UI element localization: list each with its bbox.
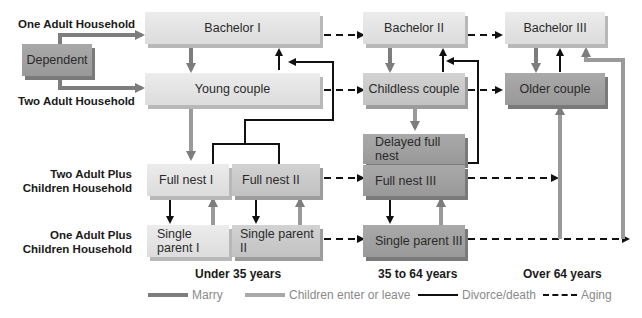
row-label-line-2: Children Household [20, 242, 132, 256]
node-single-parent-2: Single parent II [232, 225, 320, 257]
children-swatch-icon [245, 293, 285, 297]
node-single-parent-1: Single parent I [147, 225, 229, 257]
aging-swatch-icon [543, 294, 577, 296]
legend-aging: Aging [543, 288, 612, 302]
row-label-one-adult: One Adult Household [18, 17, 135, 31]
legend-divorce: Divorce/death [418, 288, 536, 302]
marry-swatch-icon [148, 293, 188, 297]
row-label-line-2: Children Household [20, 181, 132, 195]
legend-label: Divorce/death [462, 288, 536, 302]
age-label-over-64: Over 64 years [523, 267, 602, 281]
age-label-under-35: Under 35 years [195, 267, 281, 281]
legend-children: Children enter or leave [245, 288, 410, 302]
node-bachelor-3: Bachelor III [505, 12, 605, 44]
legend-label: Aging [581, 288, 612, 302]
node-older-couple: Older couple [505, 73, 605, 105]
node-full-nest-3: Full nest III [363, 165, 465, 196]
node-full-nest-1: Full nest I [147, 164, 229, 196]
legend-label: Marry [192, 288, 223, 302]
row-label-line-1: Two Adult Plus [20, 167, 132, 181]
node-bachelor-2: Bachelor II [363, 12, 465, 44]
age-label-35-64: 35 to 64 years [378, 267, 457, 281]
row-label-line-1: One Adult Plus [20, 228, 132, 242]
node-single-parent-3: Single parent III [363, 225, 465, 257]
node-full-nest-2: Full nest II [232, 164, 320, 196]
legend-label: Children enter or leave [289, 288, 410, 302]
divorce-swatch-icon [418, 294, 458, 296]
row-label-two-adult: Two Adult Household [18, 94, 135, 108]
node-young-couple: Young couple [145, 73, 320, 105]
node-delayed-full-nest: Delayed full nest [363, 134, 465, 164]
node-dependent: Dependent [22, 44, 92, 76]
row-label-one-adult-children: One Adult Plus Children Household [20, 228, 132, 256]
row-label-two-adult-children: Two Adult Plus Children Household [20, 167, 132, 195]
node-childless-couple: Childless couple [363, 73, 465, 105]
node-bachelor-1: Bachelor I [145, 12, 320, 44]
legend-marry: Marry [148, 288, 223, 302]
